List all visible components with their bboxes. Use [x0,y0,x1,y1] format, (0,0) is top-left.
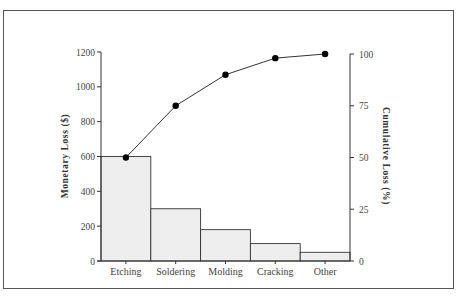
left-y-axis: 020040060080010001200 [76,48,101,267]
bar-series [101,157,350,262]
left-tick-label: 200 [81,222,96,232]
cumulative-point-other [322,51,328,57]
bar-soldering [151,209,201,261]
left-tick-label: 600 [81,152,96,162]
category-label: Cracking [257,266,294,277]
cumulative-line-series [123,51,329,161]
category-label: Other [314,266,337,277]
bar-molding [201,230,251,261]
bar-etching [101,157,151,262]
right-tick-label: 100 [359,50,374,60]
right-y-axis: 0255075100 [350,50,374,267]
right-tick-label: 0 [359,257,364,267]
category-label: Molding [208,266,242,277]
category-label: Soldering [156,266,195,277]
cumulative-point-molding [222,72,228,78]
x-axis: EtchingSolderingMoldingCrackingOther [97,261,350,277]
category-label: Etching [110,266,141,277]
pareto-chart: 020040060080010001200 0255075100 Etching… [0,0,470,296]
right-tick-label: 75 [359,101,369,111]
right-axis-title: Cumulative Loss (%) [380,107,391,205]
cumulative-point-cracking [272,55,278,61]
cumulative-point-etching [123,154,129,160]
left-tick-label: 1000 [76,82,95,92]
left-tick-label: 0 [90,257,95,267]
right-tick-label: 25 [359,205,369,215]
bar-cracking [250,244,300,261]
cumulative-point-soldering [173,103,179,109]
left-axis-title: Monetary Loss ($) [60,114,71,199]
left-tick-label: 1200 [76,48,95,58]
left-tick-label: 400 [81,187,96,197]
bar-other [300,252,350,261]
right-tick-label: 50 [359,153,369,163]
left-tick-label: 800 [81,117,96,127]
